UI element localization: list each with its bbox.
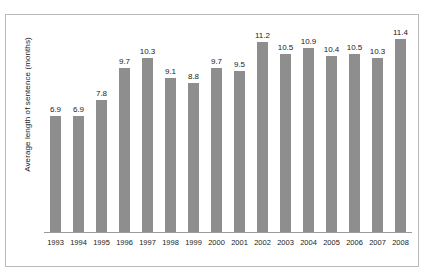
bar-slot: 10.4: [320, 22, 343, 233]
bar[interactable]: [303, 48, 314, 233]
x-axis-tick-label: 1996: [113, 238, 136, 247]
bar-value-label: 9.7: [205, 57, 228, 66]
bar[interactable]: [188, 83, 199, 233]
bar-slot: 10.3: [136, 22, 159, 233]
bar-value-label: 9.7: [113, 57, 136, 66]
bar-value-label: 11.2: [251, 31, 274, 40]
x-axis-tick-label: 2008: [389, 238, 412, 247]
bar-slot: 7.8: [90, 22, 113, 233]
bar[interactable]: [326, 56, 337, 233]
bar-slot: 10.3: [366, 22, 389, 233]
x-axis-tick-label: 1994: [67, 238, 90, 247]
x-axis-tick-label: 2005: [320, 238, 343, 247]
x-axis-tick-label: 2007: [366, 238, 389, 247]
bar-value-label: 7.8: [90, 89, 113, 98]
bar-slot: 10.9: [297, 22, 320, 233]
bar[interactable]: [395, 39, 406, 233]
bar-value-label: 10.4: [320, 45, 343, 54]
bar-value-label: 8.8: [182, 72, 205, 81]
bar[interactable]: [50, 116, 61, 233]
bar-slot: 9.7: [205, 22, 228, 233]
x-axis-line: [44, 232, 412, 233]
plot-area: 6.96.97.89.710.39.18.89.79.511.210.510.9…: [44, 22, 412, 233]
bar-value-label: 10.3: [136, 47, 159, 56]
bar-value-label: 10.5: [274, 43, 297, 52]
bar-slot: 9.5: [228, 22, 251, 233]
x-axis-tick-label: 1997: [136, 238, 159, 247]
bar-slot: 10.5: [274, 22, 297, 233]
bar-slot: 11.4: [389, 22, 412, 233]
bar[interactable]: [280, 54, 291, 233]
x-axis-tick-label: 2003: [274, 238, 297, 247]
bar-slot: 11.2: [251, 22, 274, 233]
bar-value-label: 10.5: [343, 43, 366, 52]
bar-value-label: 11.4: [389, 28, 412, 37]
bar-slot: 8.8: [182, 22, 205, 233]
x-axis-tick-label: 2002: [251, 238, 274, 247]
bar-slot: 6.9: [44, 22, 67, 233]
bar-value-label: 10.3: [366, 47, 389, 56]
x-axis-tick-label: 2004: [297, 238, 320, 247]
bar[interactable]: [234, 71, 245, 233]
bar-value-label: 9.1: [159, 67, 182, 76]
bar[interactable]: [119, 68, 130, 233]
bar[interactable]: [257, 42, 268, 233]
bar[interactable]: [73, 116, 84, 233]
bar-value-label: 9.5: [228, 60, 251, 69]
x-axis-tick-label: 1999: [182, 238, 205, 247]
bar[interactable]: [142, 58, 153, 233]
bar[interactable]: [165, 78, 176, 233]
chart-figure: Average length of sentence (months) 6.96…: [0, 0, 436, 279]
bar-value-label: 6.9: [67, 105, 90, 114]
x-axis-tick-label: 2001: [228, 238, 251, 247]
bar[interactable]: [372, 58, 383, 233]
x-axis-tick-label: 1998: [159, 238, 182, 247]
x-axis-tick-label: 1993: [44, 238, 67, 247]
bar-slot: 9.7: [113, 22, 136, 233]
bar-slot: 6.9: [67, 22, 90, 233]
y-axis-title: Average length of sentence (months): [23, 10, 32, 200]
bar[interactable]: [349, 54, 360, 233]
bar-slot: 10.5: [343, 22, 366, 233]
bar-value-label: 10.9: [297, 37, 320, 46]
bar-slot: 9.1: [159, 22, 182, 233]
x-axis-tick-label: 1995: [90, 238, 113, 247]
bar[interactable]: [211, 68, 222, 233]
bar[interactable]: [96, 100, 107, 233]
x-axis-tick-label: 2006: [343, 238, 366, 247]
x-axis-tick-label: 2000: [205, 238, 228, 247]
bar-value-label: 6.9: [44, 105, 67, 114]
